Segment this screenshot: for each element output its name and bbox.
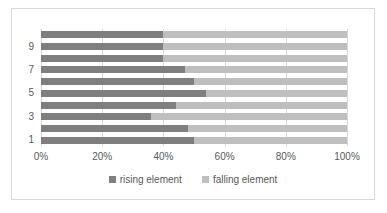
legend-item[interactable]: rising element — [109, 174, 182, 185]
legend-label: rising element — [120, 174, 182, 185]
legend-swatch-icon — [109, 176, 116, 183]
plot-area — [41, 29, 347, 146]
y-axis-tick-label: 7 — [14, 65, 34, 75]
bar-segment-falling — [194, 137, 347, 144]
y-axis: 13579 — [12, 29, 39, 146]
bar-row — [41, 125, 347, 132]
legend-label: falling element — [213, 174, 277, 185]
bar-segment-rising — [41, 102, 176, 109]
legend-swatch-icon — [202, 176, 209, 183]
y-axis-tick-label: 3 — [14, 112, 34, 122]
bar-row — [41, 113, 347, 120]
bar-row — [41, 66, 347, 73]
bar-segment-rising — [41, 55, 163, 62]
bar-row — [41, 137, 347, 144]
x-axis-tick-label: 0% — [11, 151, 71, 163]
y-axis-tick-label: 1 — [14, 135, 34, 145]
bar-segment-falling — [188, 125, 347, 132]
gridline — [347, 29, 348, 146]
bar-segment-falling — [163, 43, 347, 50]
x-axis-tick-label: 20% — [72, 151, 132, 163]
bar-segment-rising — [41, 31, 163, 38]
x-axis-tick-label: 100% — [317, 151, 377, 163]
bar-segment-falling — [206, 90, 347, 97]
x-axis: 0%20%40%60%80%100% — [41, 151, 347, 165]
y-axis-tick-label: 9 — [14, 42, 34, 52]
bar-segment-rising — [41, 113, 151, 120]
y-axis-tick-label: 5 — [14, 88, 34, 98]
bar-segment-rising — [41, 66, 185, 73]
legend-item[interactable]: falling element — [202, 174, 277, 185]
x-axis-tick-label: 40% — [133, 151, 193, 163]
bar-segment-rising — [41, 137, 194, 144]
bar-segment-falling — [185, 66, 347, 73]
bar-row — [41, 102, 347, 109]
bar-row — [41, 55, 347, 62]
chart-container: 13579 0%20%40%60%80%100% rising elementf… — [11, 8, 375, 200]
bar-row — [41, 90, 347, 97]
x-axis-tick-label: 80% — [256, 151, 316, 163]
bar-segment-falling — [163, 55, 347, 62]
bar-segment-falling — [176, 102, 347, 109]
bar-segment-rising — [41, 90, 206, 97]
bar-segment-rising — [41, 43, 163, 50]
bar-segment-rising — [41, 125, 188, 132]
x-axis-tick-label: 60% — [195, 151, 255, 163]
bar-row — [41, 43, 347, 50]
bar-segment-falling — [194, 78, 347, 85]
bar-row — [41, 31, 347, 38]
bar-segment-rising — [41, 78, 194, 85]
bar-segment-falling — [163, 31, 347, 38]
bar-row — [41, 78, 347, 85]
bar-segment-falling — [151, 113, 347, 120]
chart-legend: rising elementfalling element — [12, 174, 374, 185]
